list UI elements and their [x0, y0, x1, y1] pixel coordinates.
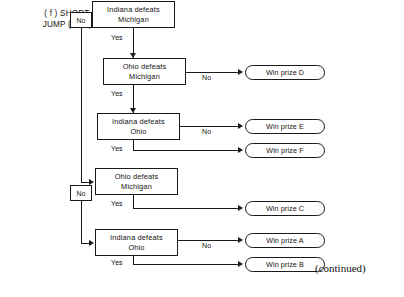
connector-d5-no-horizontal [178, 240, 239, 241]
arrowhead-to-prize-c [238, 205, 243, 211]
outcome-pill-win-prize-d[interactable]: Win prize D [245, 65, 325, 80]
arrowhead-to-prize-f [238, 147, 243, 153]
decision-box-line1: Ohio defeats [115, 172, 159, 182]
arrowhead-to-prize-a [238, 237, 243, 243]
connector-d2-no-horizontal [186, 72, 239, 73]
edge-label-yes-d1: Yes [111, 34, 123, 41]
edge-label-box-no-d1: No [70, 12, 92, 28]
connector-d1-no-vertical [81, 28, 82, 182]
decision-box-line1: Indiana defeats [112, 117, 165, 127]
decision-box-line2: Michigan [118, 15, 149, 25]
decision-box-indiana-defeats-michigan-1[interactable]: Indiana defeats Michigan [92, 1, 175, 28]
connector-d3-no-horizontal [180, 126, 239, 127]
arrowhead-to-d3 [130, 108, 136, 113]
connector-d3-yes-horizontal [133, 150, 239, 151]
outcome-label: Win prize D [266, 68, 304, 77]
edge-label-no-d2: No [202, 74, 211, 81]
connector-d4-yes-vertical [133, 195, 134, 208]
arrowhead-to-prize-b [238, 261, 243, 267]
connector-d4-yes-horizontal [133, 208, 239, 209]
outcome-pill-win-prize-a[interactable]: Win prize A [245, 233, 325, 248]
decision-box-ohio-defeats-michigan-1[interactable]: Ohio defeats Michigan [103, 58, 186, 85]
outcome-pill-win-prize-f[interactable]: Win prize F [245, 143, 325, 158]
decision-box-line2: Michigan [121, 182, 152, 192]
edge-label-yes-d3: Yes [111, 145, 123, 152]
edge-label-yes-d5: Yes [111, 259, 123, 266]
outcome-label: Win prize B [266, 260, 304, 269]
edge-label-yes-d4: Yes [111, 200, 123, 207]
continued-note: (continued) [315, 262, 366, 274]
outcome-label: Win prize C [266, 204, 304, 213]
arrowhead-to-prize-d [238, 69, 243, 75]
outcome-pill-win-prize-e[interactable]: Win prize E [245, 119, 325, 134]
edge-label-no-d5: No [202, 242, 211, 249]
edge-label-text: No [76, 17, 85, 24]
connector-d5-yes-horizontal [133, 264, 239, 265]
arrowhead-to-prize-e [238, 123, 243, 129]
decision-box-ohio-defeats-michigan-2[interactable]: Ohio defeats Michigan [95, 168, 178, 195]
connector-d4-no-vertical [81, 201, 82, 243]
decision-box-indiana-defeats-ohio-2[interactable]: Indiana defeats Ohio [95, 229, 178, 256]
edge-label-text: No [76, 190, 85, 197]
arrowhead-to-d5 [89, 240, 94, 246]
outcome-label: Win prize F [266, 146, 303, 155]
edge-label-box-no-d4: No [70, 185, 92, 201]
edge-label-no-d3: No [202, 128, 211, 135]
outcome-label: Win prize A [266, 236, 303, 245]
outcome-label: Win prize E [266, 122, 304, 131]
decision-box-line1: Indiana defeats [110, 233, 163, 243]
decision-box-line2: Ohio [130, 127, 146, 137]
decision-box-indiana-defeats-ohio-1[interactable]: Indiana defeats Ohio [97, 113, 180, 140]
outcome-pill-win-prize-b[interactable]: Win prize B [245, 257, 325, 272]
decision-box-line2: Michigan [129, 72, 160, 82]
outcome-pill-win-prize-c[interactable]: Win prize C [245, 201, 325, 216]
decision-box-line2: Ohio [128, 243, 144, 253]
arrowhead-to-d2 [130, 53, 136, 58]
figure-canvas: ( f ) SHORT- JUMP (Flow) Indiana defeats… [0, 0, 404, 297]
edge-label-yes-d2: Yes [111, 90, 123, 97]
decision-box-line1: Indiana defeats [107, 5, 160, 15]
decision-box-line1: Ohio defeats [123, 62, 167, 72]
